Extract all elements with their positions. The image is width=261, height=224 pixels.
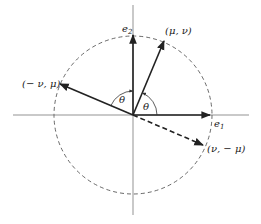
label-nu-neg-mu: (ν, − μ)	[207, 143, 245, 154]
rotation-diagram: e2 e1 (μ, ν) (− ν, μ) (ν, − μ) θ θ	[0, 0, 261, 224]
label-e2: e2	[122, 23, 133, 36]
label-theta-right: θ	[143, 101, 149, 112]
label-e1: e1	[214, 118, 224, 131]
label-neg-nu-mu: (− ν, μ)	[22, 78, 60, 89]
vector-nu-neg-mu	[133, 115, 203, 145]
label-mu-nu: (μ, ν)	[165, 25, 192, 36]
label-theta-left: θ	[119, 94, 125, 105]
